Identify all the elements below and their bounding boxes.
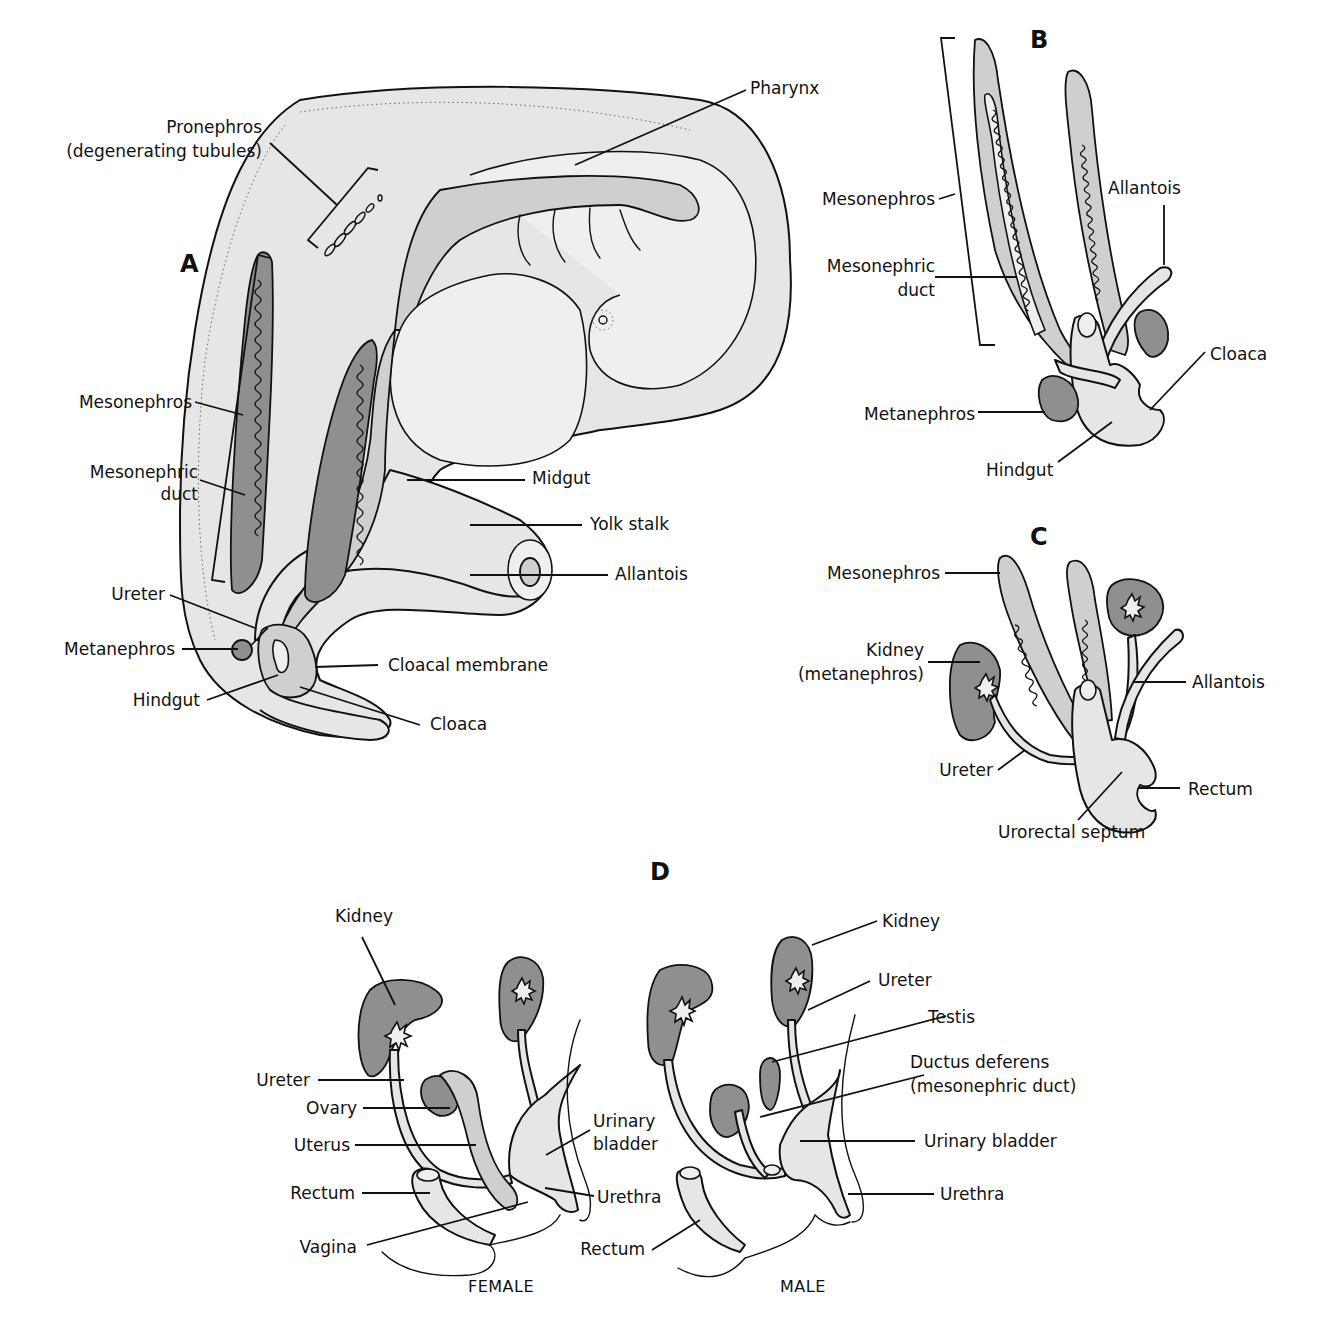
label-metanephros-a: Metanephros [64, 639, 175, 659]
label-pharynx: Pharynx [750, 78, 819, 98]
label-cloaca-a: Cloaca [430, 714, 487, 734]
label-allantois-b: Allantois [1108, 178, 1181, 198]
urogenital-sinus-c [1072, 685, 1156, 833]
label-allantois-a: Allantois [615, 564, 688, 584]
urinary-bladder-male [780, 1070, 850, 1218]
label-cloacal-membrane: Cloacal membrane [388, 655, 548, 675]
panel-label-d: D [650, 858, 670, 886]
rectum-male [677, 1169, 745, 1252]
panel-d-female: Kidney Ureter Ovary Uterus Rectum Vagina… [256, 906, 661, 1296]
label-hindgut-a: Hindgut [133, 690, 201, 710]
label-mesonephric-duct-a-2: duct [160, 484, 198, 504]
label-urethra-male: Urethra [940, 1184, 1004, 1204]
label-mesonephros-b: Mesonephros [822, 189, 935, 209]
label-ureter-c: Ureter [939, 760, 993, 780]
panel-label-a: A [180, 250, 199, 278]
panel-label-b: B [1030, 26, 1048, 54]
label-mesonephric-duct-b: Mesonephric [827, 256, 935, 276]
label-ureter-a: Ureter [111, 584, 165, 604]
metanephros-a [232, 640, 252, 660]
label-mesonephros-c: Mesonephros [827, 563, 940, 583]
label-kidney-c: Kidney [866, 640, 924, 660]
label-yolk-stalk: Yolk stalk [589, 514, 669, 534]
label-mesonephric-duct-a: Mesonephric [90, 462, 198, 482]
label-rectum-male: Rectum [580, 1239, 645, 1259]
panel-a: A [64, 78, 819, 740]
uterus [440, 1071, 517, 1210]
label-rectum-female: Rectum [290, 1183, 355, 1203]
urinary-bladder-female [509, 1065, 580, 1212]
urinary-development-diagram: A [0, 0, 1324, 1339]
label-urinary-bladder-male: Urinary bladder [924, 1131, 1057, 1151]
label-ductus-deferens-sub: (mesonephric duct) [910, 1076, 1076, 1096]
label-ureter-female: Ureter [256, 1070, 310, 1090]
label-urinary-bladder-female: Urinary [593, 1111, 655, 1131]
label-metanephros-b: Metanephros [864, 404, 975, 424]
panel-c: C Mesonephros Kidney (metanephros) Allan… [798, 523, 1265, 842]
panel-d-male: Kidney Ureter Testis Ductus deferens (me… [580, 911, 1076, 1296]
label-urorectal-septum: Urorectal septum [998, 822, 1145, 842]
label-testis: Testis [927, 1007, 975, 1027]
label-rectum-c: Rectum [1188, 779, 1253, 799]
label-midgut: Midgut [532, 468, 591, 488]
label-pronephros-sub: (degenerating tubules) [66, 141, 262, 161]
label-pronephros: Pronephros [166, 117, 262, 137]
label-kidney-female: Kidney [335, 906, 393, 926]
label-kidney-male: Kidney [882, 911, 940, 931]
kidney-female-left [358, 980, 442, 1076]
caption-male: MALE [780, 1277, 826, 1296]
label-ureter-male: Ureter [878, 970, 932, 990]
label-cloaca-b: Cloaca [1210, 344, 1267, 364]
label-ductus-deferens: Ductus deferens [910, 1052, 1049, 1072]
panel-d: D [256, 858, 1076, 1296]
testis-upper [760, 1058, 780, 1110]
label-urinary-bladder-female-2: bladder [593, 1134, 658, 1154]
label-ovary: Ovary [306, 1098, 357, 1118]
label-mesonephric-duct-b-2: duct [897, 280, 935, 300]
label-uterus: Uterus [294, 1135, 350, 1155]
panel-label-c: C [1030, 523, 1048, 551]
label-vagina: Vagina [300, 1237, 357, 1257]
panel-b: B Mesonephros Mesonephric duct Allantois… [822, 26, 1267, 480]
label-hindgut-b: Hindgut [986, 460, 1054, 480]
label-urethra-female: Urethra [597, 1187, 661, 1207]
label-mesonephros-a: Mesonephros [79, 392, 192, 412]
label-allantois-c: Allantois [1192, 672, 1265, 692]
caption-female: FEMALE [468, 1277, 534, 1296]
metanephros-b-right [1135, 310, 1169, 357]
label-kidney-c-sub: (metanephros) [798, 664, 924, 684]
